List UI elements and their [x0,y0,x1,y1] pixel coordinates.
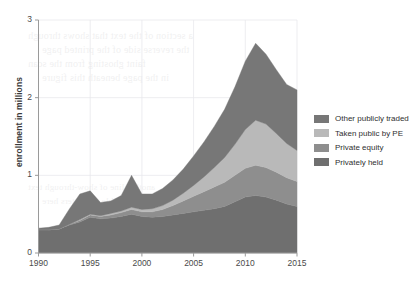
legend-item-label: Private equity [335,143,383,152]
legend-swatch-icon [314,144,329,152]
legend-item-label: Other publicly traded [335,114,409,123]
x-tick-label-2000: 2000 [122,258,162,268]
legend-item: Private equity [314,141,409,154]
stacked-area-chart-figure: enrollment in millions 0123 199019952000… [0,0,419,292]
legend-item: Other publicly traded [314,112,409,125]
x-tick-label-2015: 2015 [277,258,317,268]
legend-swatch-icon [314,115,329,123]
x-tick-label-2010: 2010 [225,258,265,268]
legend-item-label: Privately held [335,158,383,167]
chart-legend: Other publicly tradedTaken public by PEP… [314,112,409,170]
x-tick-label-2005: 2005 [174,258,214,268]
legend-item-label: Taken public by PE [335,129,403,138]
legend-swatch-icon [314,129,329,137]
legend-item: Taken public by PE [314,127,409,140]
x-tick-label-1995: 1995 [70,258,110,268]
legend-swatch-icon [314,158,329,166]
legend-item: Privately held [314,156,409,169]
x-tick-label-1990: 1990 [19,258,59,268]
